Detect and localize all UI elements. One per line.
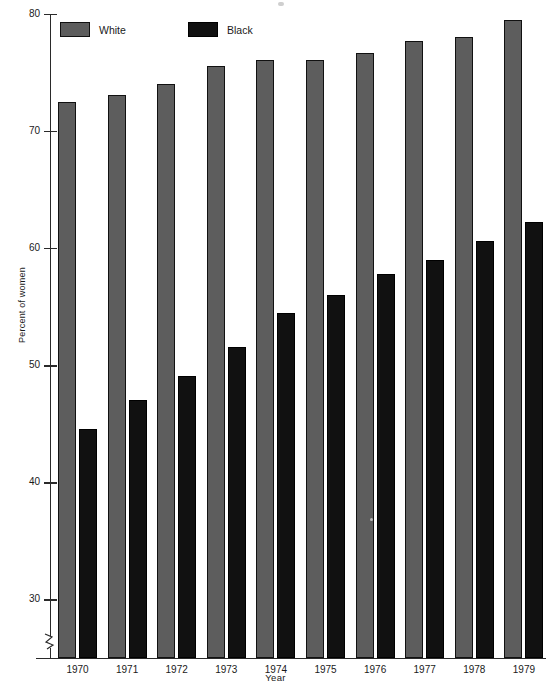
bar-group: [207, 0, 246, 658]
bar-group: [306, 0, 345, 658]
bar-black-1979: [525, 222, 543, 658]
page-speck-top: [278, 2, 284, 6]
bar-black-1976: [377, 274, 395, 658]
bar-group: [157, 0, 196, 658]
bar-black-1971: [129, 400, 147, 658]
bar-black-1974: [277, 313, 295, 658]
y-tick-label: 50: [12, 359, 40, 370]
bar-group: [405, 0, 444, 658]
black-swatch: [188, 22, 218, 37]
x-tick-label: 1974: [250, 664, 301, 675]
x-tick-label: 1971: [102, 664, 153, 675]
x-tick-label: 1975: [300, 664, 351, 675]
bar-white-1974: [256, 60, 274, 658]
bar-group: [356, 0, 395, 658]
y-tick-label: 40: [12, 476, 40, 487]
y-tick-label: 70: [12, 125, 40, 136]
bar-group: [108, 0, 147, 658]
page-speck: [370, 518, 373, 521]
y-tick-label: 80: [12, 8, 40, 19]
x-tick-label: 1972: [151, 664, 202, 675]
x-tick-label: 1976: [350, 664, 401, 675]
bar-white-1979: [504, 20, 522, 658]
bar-black-1970: [79, 429, 97, 658]
y-tick-label: 60: [12, 242, 40, 253]
bar-group: [455, 0, 494, 658]
bar-group: [256, 0, 295, 658]
legend-label: White: [99, 24, 126, 36]
bar-black-1972: [178, 376, 196, 658]
x-tick-label: 1973: [201, 664, 252, 675]
x-tick-label: 1977: [399, 664, 450, 675]
bar-black-1978: [476, 241, 494, 658]
x-tick-label: 1970: [52, 664, 103, 675]
gray-swatch: [60, 22, 90, 37]
bar-white-1978: [455, 37, 473, 658]
bar-chart: Percent of women Year 304050607080 19701…: [0, 0, 551, 690]
x-tick-label: 1978: [449, 664, 500, 675]
bar-group: [58, 0, 97, 658]
y-tick-label: 30: [12, 593, 40, 604]
legend-label: Black: [227, 24, 253, 36]
bar-group: [504, 0, 543, 658]
legend-item-black: Black: [188, 22, 253, 37]
bar-white-1971: [108, 95, 126, 658]
bar-black-1977: [426, 260, 444, 658]
y-axis-label: Percent of women: [17, 245, 27, 365]
x-axis-line: [36, 658, 546, 659]
bar-white-1977: [405, 41, 423, 658]
bar-white-1973: [207, 66, 225, 658]
legend-item-white: White: [60, 22, 126, 37]
bar-black-1975: [327, 295, 345, 658]
bar-black-1973: [228, 347, 246, 658]
plot-area: 1970197119721973197419751976197719781979: [51, 0, 547, 658]
bar-white-1975: [306, 60, 324, 658]
bar-white-1976: [356, 53, 374, 658]
bar-white-1970: [58, 102, 76, 658]
x-tick-label: 1979: [498, 664, 549, 675]
bar-white-1972: [157, 84, 175, 658]
